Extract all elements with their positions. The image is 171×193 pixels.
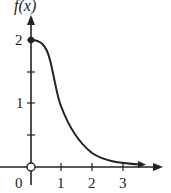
x-axis-arrow-icon	[153, 163, 163, 171]
chart: f(x) 2 1 0 1 2 3	[0, 0, 171, 193]
x-tick-label-1: 1	[57, 175, 65, 191]
function-curve	[31, 40, 140, 165]
y-tick-label-1: 1	[16, 95, 24, 111]
closed-point	[28, 37, 34, 43]
y-axis-label: f(x)	[14, 0, 36, 15]
y-tick-label-2: 2	[15, 32, 23, 48]
x-tick-label-2: 2	[88, 175, 96, 191]
x-tick-label-3: 3	[119, 175, 127, 191]
y-axis-arrow-icon	[27, 15, 35, 25]
x-tick-label-0: 0	[15, 175, 23, 191]
open-point	[27, 163, 35, 171]
